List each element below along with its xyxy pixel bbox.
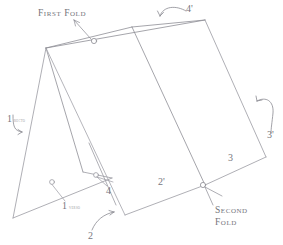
second-fold-label: Second Fold (215, 204, 248, 228)
left-panel-inner-fold-edge (46, 48, 83, 172)
panel-label-4: 4 (106, 186, 111, 196)
panel3-right-edge (205, 20, 266, 157)
second-fold-label-line2: Fold (215, 216, 248, 228)
panel-1-verso-marker (50, 180, 55, 185)
arrow-3prime-curve (257, 99, 273, 133)
first-fold-label: First Fold (38, 9, 86, 19)
panel-label-2: 2 (88, 231, 93, 241)
second-fold-leader-b (205, 187, 222, 196)
panel-1-recto-number: 1 (7, 113, 12, 124)
panel-label-3-prime: 3' (267, 130, 274, 140)
panel-1-verso-note: verso (69, 206, 80, 210)
arrow-3prime-head (256, 96, 262, 101)
panel-label-3: 3 (228, 153, 233, 163)
panel-1-verso-leader (52, 185, 65, 202)
panel-label-1-recto: 1 recto (7, 113, 25, 124)
arrow-4prime-curve (160, 7, 186, 16)
first-fold-leader (74, 20, 91, 39)
back-panel-left-edge (46, 48, 125, 215)
panel-4-marker (94, 173, 99, 178)
ridge-line (46, 20, 205, 48)
diagram-canvas: First Fold Second Fold 1 recto 1 verso 4… (0, 0, 283, 245)
panel-label-4-prime: 4' (186, 4, 193, 14)
panel3-bottom-edge (205, 157, 266, 185)
second-fold-leader-a (205, 187, 213, 205)
first-fold-marker (91, 38, 96, 43)
panel-label-1-verso: 1 verso (62, 200, 80, 211)
panel2-bottom-edge (125, 185, 205, 215)
panel-1-recto-note: recto (14, 119, 25, 123)
left-panel-outer-edge (13, 48, 46, 218)
panel2-right-fold-line (132, 27, 205, 185)
second-fold-label-line1: Second (215, 204, 248, 216)
panel-label-2-prime: 2' (158, 177, 165, 187)
panel-1-verso-number: 1 (62, 200, 67, 211)
panel3-top-edge (132, 20, 205, 27)
panel2-top-edge-left (46, 27, 132, 48)
